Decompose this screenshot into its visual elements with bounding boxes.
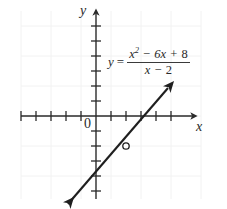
denominator-constant: 2: [166, 63, 172, 77]
numerator-term3: 8: [181, 47, 187, 61]
x-axis-label: x: [196, 120, 202, 134]
numerator-term2: 6x: [154, 47, 166, 61]
hole-open-circle: [123, 143, 129, 149]
equation-annotation: y = x2 − 6x + 8 x − 2: [108, 46, 190, 77]
x-axis: [21, 111, 192, 121]
equation-lhs: y: [108, 54, 114, 70]
numerator-operator-1: −: [142, 47, 151, 61]
origin-label: 0: [84, 117, 91, 131]
y-axis-label: y: [80, 4, 86, 18]
plot-area: [0, 0, 227, 209]
equation-fraction: x2 − 6x + 8 x − 2: [127, 46, 190, 77]
denominator-variable: x: [145, 63, 151, 77]
equation-equals-sign: =: [117, 54, 124, 70]
graph-figure: y x 0 y = x2 − 6x + 8 x − 2: [0, 0, 227, 209]
equation-denominator: x − 2: [143, 63, 174, 77]
function-curve: [68, 88, 168, 204]
denominator-operator: −: [154, 63, 163, 77]
numerator-term1-exponent: 2: [135, 45, 139, 55]
equation-numerator: x2 − 6x + 8: [127, 46, 190, 62]
numerator-operator-2: +: [169, 47, 178, 61]
